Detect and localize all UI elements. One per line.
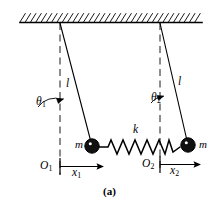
pendulum-diagram-canvas [0, 0, 219, 207]
ceiling-hatching [20, 14, 200, 23]
angle-label-theta1: θ1 [36, 96, 46, 109]
displacement-label-left: x1 [72, 167, 81, 180]
mass-label-right: m [199, 139, 207, 150]
ceiling-support [20, 14, 202, 23]
pendulum-rod-left [60, 23, 92, 146]
pendulum-rod-right [160, 23, 188, 145]
angle-arrowhead-left [57, 99, 64, 104]
figure-caption: (a) [0, 186, 219, 197]
pendulum-bob-right [181, 138, 195, 152]
length-label-left: l [66, 78, 69, 90]
pendulum-bob-left-highlight [89, 142, 92, 145]
displacement-axis-left [60, 158, 104, 175]
displacement-axis-right [160, 156, 201, 173]
displacement-label-right: x2 [170, 165, 179, 178]
coupled-pendulum-figure: θ1 θ2 l l m m k O1 O2 x1 x2 (a) [0, 0, 219, 207]
pendulum-bob-right-highlight [185, 141, 188, 144]
pendulum-left [38, 23, 99, 174]
length-label-right: l [178, 76, 181, 88]
pendulum-bob-left [85, 139, 99, 153]
spring-coils [99, 140, 180, 154]
angle-label-theta2: θ2 [151, 92, 161, 105]
origin-label-right: O2 [142, 158, 154, 171]
origin-label-left: O1 [40, 160, 52, 173]
mass-label-left: m [75, 139, 83, 150]
coupling-spring [99, 140, 180, 154]
spring-constant-label: k [133, 124, 138, 136]
